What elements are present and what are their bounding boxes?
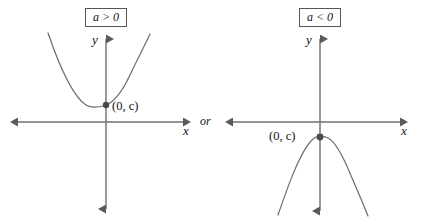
left-parabola-curve: [48, 33, 150, 107]
left-vertex-point: [103, 102, 109, 108]
right-vertex-point: [317, 134, 324, 141]
right-parabola-curve: [278, 136, 368, 216]
left-vertex-label: (0, c): [112, 100, 138, 113]
panel-a-positive-axes: [18, 39, 183, 209]
quadratic-orientation-figure: a > 0 y x (0, c) or a < 0 y x (0, c): [0, 0, 430, 221]
condition-text-a-positive: a > 0: [93, 10, 119, 24]
connector-or-text: or: [200, 115, 211, 127]
right-vertex-label: (0, c): [269, 130, 295, 143]
panel-a-negative-axes: [233, 39, 400, 211]
left-x-axis-label: x: [183, 124, 189, 137]
right-y-axis-label: y: [306, 33, 312, 46]
condition-text-a-negative: a < 0: [307, 10, 333, 24]
right-x-axis-label: x: [401, 124, 407, 137]
figure-canvas: [0, 0, 430, 221]
condition-label-a-negative: a < 0: [299, 8, 341, 27]
condition-label-a-positive: a > 0: [85, 8, 127, 27]
left-y-axis-label: y: [92, 33, 98, 46]
